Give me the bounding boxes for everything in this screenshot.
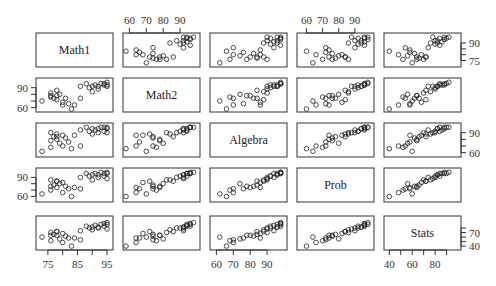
data-point — [134, 144, 139, 149]
tick-label: 80 — [333, 14, 345, 26]
scatter-panel-prob-vs-stats — [384, 168, 461, 202]
data-point — [72, 236, 77, 241]
data-point — [90, 178, 95, 183]
data-point — [396, 190, 401, 195]
data-point — [49, 130, 54, 135]
scatter-panel-stats-vs-math1 — [36, 216, 113, 250]
data-point — [336, 92, 341, 97]
data-point — [78, 84, 83, 89]
scatter-panel-stats-vs-prob — [297, 216, 374, 250]
data-point — [78, 96, 83, 101]
data-point — [218, 192, 223, 197]
scatter-panel-algebra-vs-prob — [297, 123, 374, 157]
data-point — [218, 61, 223, 66]
right-axis-math1: 7590 — [461, 37, 481, 67]
tick-label: 90 — [262, 258, 274, 270]
data-point — [218, 235, 223, 240]
data-point — [356, 36, 361, 41]
data-point — [343, 97, 348, 102]
data-point — [314, 52, 319, 57]
data-point — [49, 145, 54, 150]
data-point — [314, 103, 319, 108]
scatter-panel-math2-vs-math1 — [36, 78, 113, 112]
top-axis-math2: 60708090 — [124, 14, 186, 33]
data-point — [245, 57, 250, 62]
data-point — [311, 61, 316, 66]
data-point — [238, 92, 243, 97]
data-point — [419, 52, 424, 57]
data-point — [218, 99, 223, 104]
variable-label: Algebra — [229, 133, 268, 147]
data-point — [346, 41, 351, 46]
scatter-panel-algebra-vs-math1 — [36, 123, 113, 157]
data-point — [147, 132, 152, 137]
data-point — [87, 129, 92, 134]
data-point — [174, 226, 179, 231]
data-point — [78, 238, 83, 243]
data-point — [419, 100, 424, 105]
data-point — [353, 38, 358, 43]
right-axis-stats: 4070 — [461, 227, 481, 253]
data-point — [66, 187, 71, 192]
tick-label: 90 — [469, 127, 481, 139]
data-point — [151, 45, 156, 50]
data-point — [304, 49, 309, 54]
tick-label: 90 — [349, 14, 361, 26]
tick-label: 60 — [17, 102, 29, 114]
data-point — [151, 51, 156, 56]
data-point — [412, 51, 417, 56]
data-point — [224, 107, 229, 112]
tick-label: 90 — [469, 37, 481, 49]
data-point — [343, 55, 348, 60]
data-point — [231, 52, 236, 57]
data-point — [396, 103, 401, 108]
data-point — [387, 194, 392, 199]
data-point — [265, 38, 270, 43]
data-point — [241, 101, 246, 106]
data-point — [124, 49, 129, 54]
data-point — [69, 146, 74, 151]
tick-label: 90 — [17, 82, 29, 94]
data-point — [258, 52, 263, 57]
scatter-panel-prob-vs-math2 — [123, 168, 200, 202]
data-point — [228, 57, 233, 62]
data-point — [245, 233, 250, 238]
data-point — [57, 181, 62, 186]
scatter-panel-math2-vs-prob — [297, 78, 374, 112]
data-point — [57, 141, 62, 146]
scatter-panel-algebra-vs-stats — [384, 123, 461, 157]
data-point — [408, 133, 413, 138]
data-point — [336, 237, 341, 242]
data-point — [245, 93, 250, 98]
tick-label: 90 — [175, 14, 187, 26]
data-point — [387, 146, 392, 151]
data-point — [66, 140, 71, 145]
data-point — [174, 38, 179, 43]
data-point — [124, 194, 129, 199]
data-point — [40, 192, 45, 197]
data-point — [63, 136, 68, 141]
data-point — [258, 236, 263, 241]
data-point — [336, 141, 341, 146]
data-point — [158, 233, 163, 238]
data-point — [49, 238, 54, 243]
data-point — [60, 190, 65, 195]
data-point — [124, 244, 129, 249]
data-point — [63, 96, 68, 101]
data-point — [90, 89, 95, 94]
data-point — [171, 55, 176, 60]
data-point — [69, 244, 74, 249]
tick-label: 75 — [42, 258, 54, 270]
tick-label: 60 — [407, 258, 419, 270]
data-point — [428, 89, 433, 94]
data-point — [78, 187, 83, 192]
data-point — [144, 149, 149, 154]
scatter-panel-math1-vs-math2 — [123, 33, 200, 67]
data-point — [346, 57, 351, 62]
scatter-panel-algebra-vs-math2 — [123, 123, 200, 157]
data-point — [304, 107, 309, 112]
data-point — [410, 61, 415, 66]
data-point — [134, 133, 139, 138]
data-point — [78, 175, 83, 180]
data-point — [428, 41, 433, 46]
